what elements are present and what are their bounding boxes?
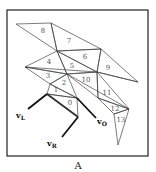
edge-layer <box>25 67 138 117</box>
triangle-mesh-diagram: vLvRvO 012345678910111213 A <box>0 0 156 172</box>
vector-label-vR: vR <box>46 138 58 149</box>
triangle-label: 6 <box>83 53 88 61</box>
vector-vL <box>28 94 47 109</box>
mesh-edge <box>25 67 97 72</box>
triangle-label: 13 <box>117 116 126 124</box>
triangle-label: 8 <box>41 27 45 35</box>
mesh-edge <box>97 72 138 82</box>
triangle-8 <box>16 23 57 51</box>
label-layer: 012345678910111213 <box>41 27 126 124</box>
vector-vR <box>62 117 78 137</box>
vector-label-vL: vL <box>15 110 26 121</box>
triangle-13 <box>114 109 129 145</box>
triangle-6 <box>57 49 101 72</box>
triangle-layer <box>16 23 138 145</box>
figure-caption: A <box>73 160 82 171</box>
triangle-label: 7 <box>67 37 71 45</box>
vector-vO <box>77 98 96 118</box>
mesh-edge <box>67 74 129 109</box>
triangle-label: 9 <box>106 64 110 72</box>
triangle-label: 5 <box>70 62 74 70</box>
triangle-label: 12 <box>111 105 120 113</box>
triangle-label: 3 <box>46 72 50 80</box>
triangle-label: 0 <box>68 99 72 107</box>
vector-layer: vLvRvO <box>15 94 107 149</box>
triangle-label: 11 <box>103 89 112 97</box>
triangle-label: 2 <box>62 79 66 87</box>
triangle-label: 10 <box>82 76 91 84</box>
vector-label-vO: vO <box>96 116 107 127</box>
triangle-label: 4 <box>47 58 52 66</box>
triangle-label: 1 <box>54 86 58 94</box>
triangle-7 <box>51 23 101 51</box>
